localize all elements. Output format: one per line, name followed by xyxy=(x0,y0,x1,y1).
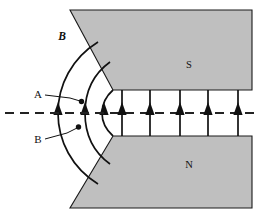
field-vector-label: B xyxy=(57,30,66,42)
callout-a-dot xyxy=(79,99,84,104)
callout-label-a: A xyxy=(34,88,42,100)
callout-b-dot xyxy=(76,124,81,129)
callout-label-b: B xyxy=(34,133,41,145)
pole-label-north: N xyxy=(185,159,193,170)
figure-canvas: B A B S N xyxy=(0,0,270,217)
pole-label-south: S xyxy=(186,59,192,70)
physics-figure-magnetic-field: B A B S N xyxy=(0,0,270,217)
